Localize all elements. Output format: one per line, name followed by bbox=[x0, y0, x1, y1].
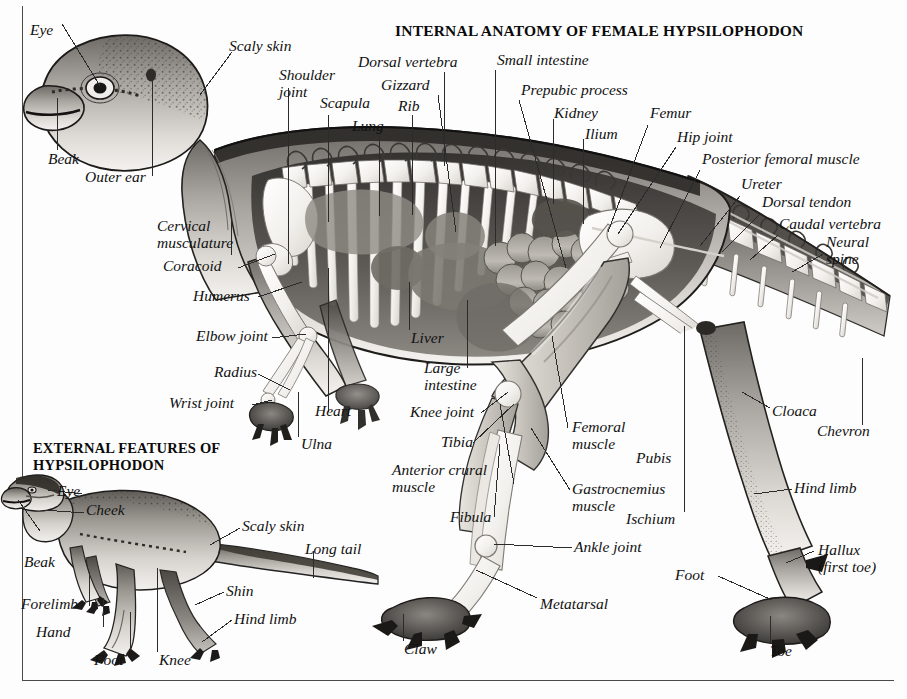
label-liver: Liver bbox=[411, 330, 444, 347]
label-anterior-crural-muscle: Anterior crural muscle bbox=[392, 462, 487, 495]
label-ext-eye: Eye bbox=[57, 483, 80, 500]
label-hallux: Hallux (first toe) bbox=[818, 542, 876, 575]
label-ext-long-tail: Long tail bbox=[305, 541, 361, 558]
label-ext-foot: Foot bbox=[94, 652, 123, 669]
label-metatarsal: Metatarsal bbox=[540, 596, 608, 613]
label-ext-hand: Hand bbox=[36, 624, 70, 641]
label-caudal-vertebra: Caudal vertebra bbox=[779, 216, 881, 233]
label-ext-scaly-skin: Scaly skin bbox=[242, 518, 304, 535]
label-radius: Radius bbox=[214, 364, 257, 381]
label-prepubic-process: Prepubic process bbox=[521, 82, 628, 99]
label-ext-shin: Shin bbox=[226, 583, 254, 600]
label-heart: Heart bbox=[315, 403, 351, 420]
label-wrist-joint: Wrist joint bbox=[169, 395, 234, 412]
label-beak: Beak bbox=[48, 151, 79, 168]
label-fibula: Fibula bbox=[450, 509, 491, 526]
label-ext-forelimb: Forelimb bbox=[21, 596, 78, 613]
label-knee-joint: Knee joint bbox=[410, 404, 474, 421]
label-femur: Femur bbox=[650, 105, 691, 122]
label-ext-knee: Knee bbox=[159, 652, 191, 669]
label-ureter: Ureter bbox=[741, 176, 782, 193]
label-posterior-femoral-muscle: Posterior femoral muscle bbox=[702, 151, 860, 168]
label-ulna: Ulna bbox=[301, 436, 332, 453]
label-foot-internal: Foot bbox=[675, 567, 704, 584]
label-eye: Eye bbox=[30, 22, 53, 39]
label-outer-ear: Outer ear bbox=[85, 169, 146, 186]
label-tibia: Tibia bbox=[441, 434, 473, 451]
label-scaly-skin: Scaly skin bbox=[229, 38, 291, 55]
label-humerus: Humerus bbox=[193, 288, 250, 305]
anatomy-diagram-page: INTERNAL ANATOMY OF FEMALE HYPSILOPHODON… bbox=[0, 0, 907, 699]
label-femoral-muscle: Femoral muscle bbox=[572, 419, 625, 452]
label-coracoid: Coracoid bbox=[163, 258, 222, 275]
label-pubis: Pubis bbox=[636, 450, 671, 467]
label-toe: Toe bbox=[770, 643, 792, 660]
label-large-intestine: Large intestine bbox=[424, 360, 477, 393]
label-dorsal-tendon: Dorsal tendon bbox=[762, 194, 851, 211]
label-hind-limb-internal: Hind limb bbox=[794, 480, 856, 497]
label-ext-hind-limb: Hind limb bbox=[234, 611, 296, 628]
leader-lines-external bbox=[0, 0, 907, 699]
external-features-title: EXTERNAL FEATURES OF HYPSILOPHODON bbox=[33, 440, 220, 474]
label-ext-beak: Beak bbox=[24, 554, 55, 571]
label-gizzard: Gizzard bbox=[381, 77, 430, 94]
label-hip-joint: Hip joint bbox=[677, 129, 733, 146]
label-neural-spine: Neural spine bbox=[826, 234, 869, 267]
label-cloaca: Cloaca bbox=[772, 403, 817, 420]
label-scapula: Scapula bbox=[320, 95, 370, 112]
label-claw: Claw bbox=[404, 641, 437, 658]
label-kidney: Kidney bbox=[554, 105, 598, 122]
label-ischium: Ischium bbox=[626, 511, 675, 528]
label-small-intestine: Small intestine bbox=[497, 52, 589, 69]
page-title: INTERNAL ANATOMY OF FEMALE HYPSILOPHODON bbox=[395, 22, 803, 40]
label-elbow-joint: Elbow joint bbox=[196, 328, 268, 345]
label-ext-cheek: Cheek bbox=[86, 502, 125, 519]
label-dorsal-vertebra: Dorsal vertebra bbox=[358, 54, 457, 71]
label-rib: Rib bbox=[398, 98, 420, 115]
label-chevron: Chevron bbox=[817, 423, 870, 440]
label-cervical-musculature: Cervical musculature bbox=[157, 218, 233, 251]
label-ilium: Ilium bbox=[585, 126, 618, 143]
label-ankle-joint: Ankle joint bbox=[574, 539, 642, 556]
label-lung: Lung bbox=[352, 118, 384, 135]
